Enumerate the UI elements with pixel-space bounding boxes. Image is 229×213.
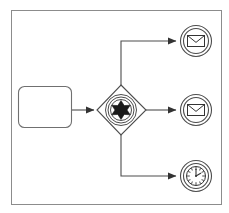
envelope-icon: [188, 105, 205, 116]
clock-icon: [187, 167, 206, 186]
bpmn-diagram-canvas: [0, 0, 229, 213]
intermediate-message-event-top[interactable]: [181, 26, 212, 57]
envelope-icon: [188, 36, 205, 47]
diagram-surface: [0, 0, 229, 213]
task-activity[interactable]: [19, 87, 72, 128]
intermediate-timer-event-bottom[interactable]: [181, 161, 212, 192]
intermediate-message-event-middle[interactable]: [181, 95, 212, 126]
